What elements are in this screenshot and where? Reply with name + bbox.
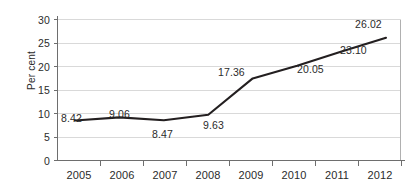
y-tick-label-10: 10 (24, 108, 50, 120)
x-tick-label-2012: 2012 (354, 169, 406, 181)
data-label-2005: 8.42 (61, 112, 82, 124)
y-tick-label-25: 25 (24, 37, 50, 49)
line-chart: Per cent 30 25 20 15 10 5 0 2005 2006 20… (0, 0, 420, 192)
data-label-2006: 9.06 (109, 108, 130, 120)
y-tick-label-30: 30 (24, 14, 50, 26)
y-axis-ticks (54, 20, 58, 161)
y-tick-label-15: 15 (24, 84, 50, 96)
data-label-2010: 20.05 (297, 63, 324, 75)
data-label-2011: 23.10 (340, 44, 367, 56)
data-label-2007: 8.47 (152, 128, 173, 140)
data-label-2009: 17.36 (218, 66, 245, 78)
y-tick-label-0: 0 (24, 155, 50, 167)
y-tick-label-5: 5 (24, 131, 50, 143)
data-label-2008: 9.63 (203, 119, 224, 131)
y-tick-label-20: 20 (24, 61, 50, 73)
x-axis-ticks (101, 161, 402, 166)
data-label-2012: 26.02 (355, 18, 382, 30)
